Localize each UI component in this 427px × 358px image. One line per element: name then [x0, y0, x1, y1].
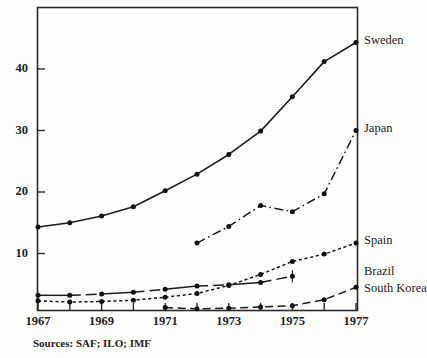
x-tick-label: 1967 [15, 314, 61, 329]
x-tick-label: 1969 [79, 314, 125, 329]
series-label-south-korea: South Korea [364, 281, 427, 296]
x-tick-label: 1975 [269, 314, 315, 329]
series-brazil [36, 270, 295, 298]
series-label-sweden: Sweden [364, 33, 404, 48]
x-tick-label: 1977 [333, 314, 379, 329]
x-tick-label: 1971 [142, 314, 188, 329]
series-label-brazil: Brazil [364, 264, 395, 279]
y-tick-label: 30 [2, 123, 28, 138]
series-spain [36, 241, 359, 305]
series-label-spain: Spain [364, 233, 392, 248]
y-tick-label: 20 [2, 184, 28, 199]
series-label-japan: Japan [364, 121, 392, 136]
y-tick-label: 10 [2, 246, 28, 261]
data-series-group [36, 40, 359, 311]
source-note: Sources: SAF; ILO; IMF [33, 337, 151, 349]
plot-frame [38, 8, 358, 311]
x-tick-label: 1973 [206, 314, 252, 329]
chart-title [120, 0, 320, 4]
series-south-korea [163, 285, 359, 312]
y-tick-label: 40 [2, 61, 28, 76]
series-japan [195, 128, 359, 246]
